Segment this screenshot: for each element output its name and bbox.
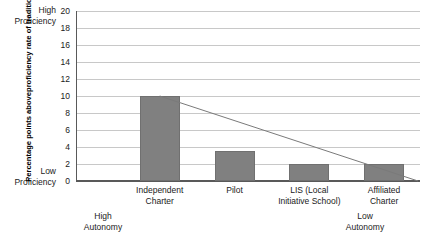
autonomy-label-low: Low Autonomy: [320, 211, 410, 233]
chart-container: High Proficiency Low Proficiency Percent…: [0, 0, 429, 235]
autonomy-low-line1: Low: [320, 211, 410, 222]
y-axis-tick-label: 4: [48, 142, 70, 152]
y-axis-tick-label: 10: [48, 91, 70, 101]
category-label-line2: Charter: [115, 196, 205, 207]
x-axis-category-label: AffiliatedCharter: [339, 185, 429, 207]
category-label-line1: Affiliated: [339, 185, 429, 196]
plot-area: [76, 11, 420, 181]
y-axis-tick-label: 6: [48, 125, 70, 135]
autonomy-label-high: High Autonomy: [58, 211, 148, 233]
y-axis-tick-label: 16: [48, 40, 70, 50]
y-axis-tick-label: 0: [48, 176, 70, 186]
autonomy-high-line1: High: [58, 211, 148, 222]
category-label-line2: Charter: [339, 196, 429, 207]
y-axis-tick-label: 2: [48, 159, 70, 169]
trend-line: [76, 11, 420, 181]
autonomy-low-line2: Autonomy: [320, 222, 410, 233]
y-axis-tick-label: 18: [48, 23, 70, 33]
trend-line-segment: [160, 96, 418, 181]
y-axis-tick-label: 20: [48, 6, 70, 16]
autonomy-high-line2: Autonomy: [58, 222, 148, 233]
y-axis-tick-label: 8: [48, 108, 70, 118]
y-axis-tick-label: 12: [48, 74, 70, 84]
y-axis-tick-label: 14: [48, 57, 70, 67]
